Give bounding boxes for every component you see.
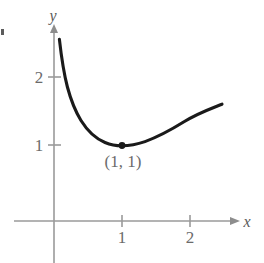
minimum-point-marker — [119, 142, 126, 149]
y-axis-arrow-icon — [50, 24, 58, 33]
x-axis-arrow-icon — [230, 217, 240, 225]
y-axis-label: y — [47, 7, 57, 25]
x-tick-label-2: 2 — [186, 228, 195, 247]
function-curve — [59, 39, 222, 145]
x-tick-label-1: 1 — [118, 228, 127, 247]
graph-plot: 1 2 1 2 x y (1, 1) — [0, 0, 264, 263]
x-axis-label: x — [242, 213, 250, 230]
y-tick-label-1: 1 — [35, 136, 44, 155]
y-tick-label-2: 2 — [35, 68, 44, 87]
minimum-point-label: (1, 1) — [105, 152, 142, 171]
